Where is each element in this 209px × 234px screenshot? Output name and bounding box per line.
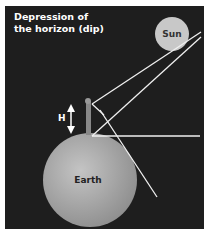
- dip-diagram: Sun Earth H: [0, 0, 209, 234]
- observer-tower: [86, 101, 91, 135]
- earth-label: Earth: [74, 175, 101, 185]
- observer-head: [85, 98, 91, 104]
- height-label: H: [58, 113, 66, 123]
- sun-label: Sun: [162, 29, 181, 39]
- height-arrow-icon: [67, 104, 75, 134]
